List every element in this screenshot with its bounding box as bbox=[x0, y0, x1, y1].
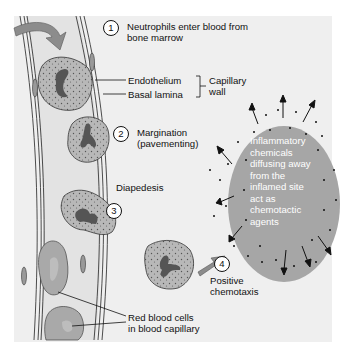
cloud-text-line-4: from the bbox=[250, 170, 285, 182]
step-4-label-line1: Positive bbox=[210, 275, 244, 286]
rbc-label-line2: in blood capillary bbox=[128, 323, 199, 334]
capillary-wall-label-line2: wall bbox=[209, 86, 226, 97]
step-1-badge: 1 bbox=[103, 20, 119, 36]
step-2-label-line1: Margination bbox=[137, 127, 187, 138]
cloud-text-line-5: inflamed site bbox=[250, 181, 304, 193]
rbc-label-line1: Red blood cells bbox=[128, 312, 194, 323]
step-4-badge: 4 bbox=[214, 256, 230, 272]
endothelium-label: Endothelium bbox=[128, 75, 181, 86]
capillary-wall-label-line1: Capillary bbox=[209, 75, 246, 86]
cloud-text-line-1: Inflammatory bbox=[250, 135, 305, 147]
step-2-badge: 2 bbox=[113, 126, 129, 142]
cloud-text-line-6: act as bbox=[250, 193, 276, 205]
cloud-text-line-2: chemicals bbox=[250, 147, 293, 159]
cloud-text-line-3: diffusing away bbox=[250, 158, 311, 170]
cloud-text-line-8: agents bbox=[250, 216, 279, 228]
cloud-text-line-7: chemotactic bbox=[250, 204, 301, 216]
diagram-illustration bbox=[0, 0, 346, 351]
step-1-label-line1: Neutrophils enter blood from bbox=[127, 21, 248, 32]
step-1-label-line2: bone marrow bbox=[127, 32, 183, 43]
basal-lamina-label: Basal lamina bbox=[128, 89, 183, 100]
step-4-label-line2: chemotaxis bbox=[210, 286, 259, 297]
step-3-badge: 3 bbox=[106, 203, 122, 219]
step-2-label-line2: (pavementing) bbox=[137, 138, 198, 149]
step-3-label: Diapedesis bbox=[116, 182, 163, 193]
neutrophil-1 bbox=[38, 57, 92, 110]
